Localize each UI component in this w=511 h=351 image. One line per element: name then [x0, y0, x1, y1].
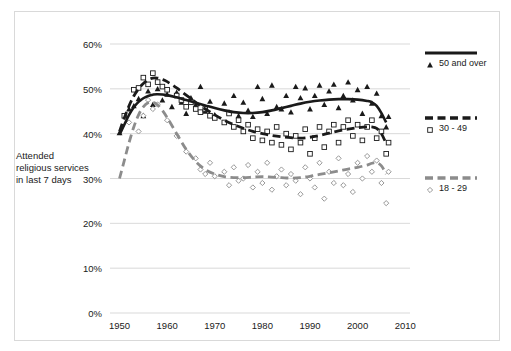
data-point — [336, 156, 341, 161]
data-point — [322, 196, 327, 201]
data-point — [259, 96, 265, 101]
data-point — [270, 140, 275, 145]
data-point — [345, 171, 350, 176]
data-point — [355, 87, 361, 92]
data-point — [317, 82, 323, 87]
legend-line-1 — [425, 48, 481, 58]
data-point — [241, 129, 246, 134]
legend-line-3 — [425, 173, 481, 183]
data-point — [151, 71, 156, 76]
data-point — [250, 185, 255, 190]
data-point — [284, 183, 289, 188]
data-point — [231, 93, 237, 98]
data-point — [159, 97, 165, 102]
data-point — [341, 125, 346, 130]
data-point — [369, 169, 374, 174]
data-point — [221, 100, 227, 105]
x-tick-label: 2010 — [385, 320, 425, 331]
data-point — [360, 138, 365, 143]
data-point — [386, 114, 392, 119]
data-point — [336, 105, 342, 110]
data-point — [427, 187, 432, 192]
data-point — [351, 134, 356, 139]
data-point — [207, 98, 213, 103]
data-point — [208, 113, 213, 118]
data-point — [298, 192, 303, 197]
data-point — [232, 125, 237, 130]
data-point — [169, 104, 175, 109]
data-point — [226, 183, 231, 188]
data-point — [331, 180, 336, 185]
data-point — [298, 95, 304, 100]
data-point — [184, 104, 189, 109]
data-point — [279, 143, 284, 148]
data-point — [364, 84, 370, 89]
data-point — [165, 87, 170, 92]
y-tick-label: 0% — [68, 308, 102, 319]
data-point — [303, 165, 308, 170]
data-point — [341, 183, 346, 188]
data-point — [386, 140, 391, 145]
data-point — [288, 109, 294, 114]
legend-marker-2 — [425, 125, 435, 135]
data-point — [251, 136, 256, 141]
data-point — [365, 153, 370, 158]
x-tick-label: 1970 — [195, 320, 235, 331]
data-point — [332, 122, 337, 127]
data-point — [384, 201, 389, 206]
data-point — [360, 176, 365, 181]
data-point — [284, 131, 289, 136]
data-point — [265, 160, 270, 165]
data-point — [379, 129, 384, 134]
data-point — [317, 125, 322, 130]
data-point — [312, 93, 318, 98]
data-point — [183, 111, 189, 116]
data-point — [236, 118, 241, 123]
data-point — [283, 93, 289, 98]
legend-marker-3 — [425, 185, 435, 195]
data-point — [184, 149, 189, 154]
legend-label-1: 50 and over — [439, 58, 505, 69]
legend-marker-1 — [425, 60, 435, 70]
data-point — [260, 180, 265, 185]
data-point — [345, 79, 351, 84]
data-point — [374, 158, 379, 163]
data-point — [255, 169, 260, 174]
x-tick-label: 1950 — [100, 320, 140, 331]
data-point — [240, 99, 246, 104]
data-point — [198, 110, 203, 115]
data-point — [370, 118, 375, 123]
data-point — [288, 171, 293, 176]
data-point — [293, 84, 299, 89]
data-point — [250, 114, 256, 119]
data-point — [374, 90, 380, 95]
x-tick-label: 1980 — [242, 320, 282, 331]
data-point — [141, 75, 146, 80]
data-point — [303, 127, 308, 132]
data-point — [207, 160, 212, 165]
x-tick-label: 2000 — [338, 320, 378, 331]
x-tick-label: 1960 — [147, 320, 187, 331]
data-point — [383, 124, 389, 129]
data-point — [321, 102, 327, 107]
data-point — [274, 125, 279, 130]
data-point — [150, 106, 155, 111]
legend-label-2: 30 - 49 — [439, 123, 505, 134]
data-point — [231, 165, 236, 170]
data-point — [355, 160, 360, 165]
data-point — [260, 138, 265, 143]
data-point — [255, 127, 260, 132]
data-point — [317, 160, 322, 165]
data-point — [269, 82, 275, 87]
data-point — [279, 167, 284, 172]
data-point — [374, 136, 379, 141]
data-point — [136, 129, 141, 134]
legend-line-2 — [425, 113, 481, 123]
chart-root: Attended religious services in last 7 da… — [0, 0, 511, 351]
data-point — [222, 169, 227, 174]
data-point — [160, 84, 165, 89]
legend-label-3: 18 - 29 — [439, 183, 505, 194]
data-point — [198, 84, 204, 89]
data-point — [298, 140, 303, 145]
data-point — [379, 180, 384, 185]
